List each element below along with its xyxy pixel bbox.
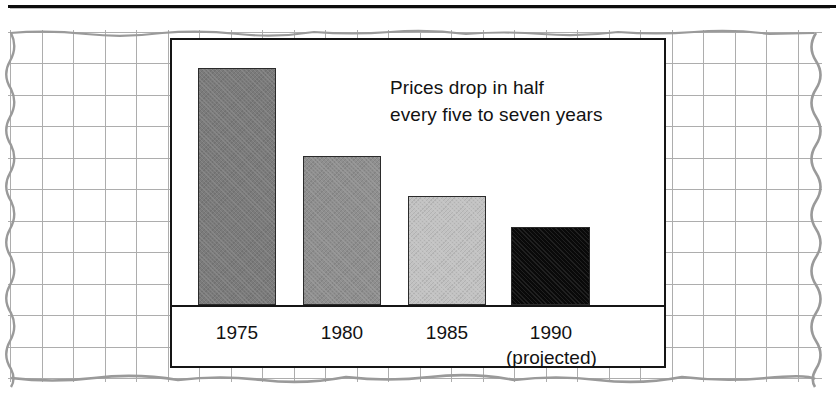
page-top-rule — [8, 5, 836, 8]
x-tick-label: 1985 — [426, 322, 468, 343]
x-tick-1975: 1975 — [194, 321, 280, 345]
bar-1985 — [408, 196, 486, 305]
bar-1975 — [198, 68, 276, 305]
bar-1990 — [511, 227, 590, 305]
x-tick-label: 1975 — [216, 322, 258, 343]
x-tick-sublabel: (projected) — [506, 345, 596, 371]
x-tick-1980: 1980 — [299, 321, 385, 345]
chart-annotation: Prices drop in half every five to seven … — [390, 74, 640, 128]
x-axis-label-row: 1975 1980 1985 1990 (projected) — [172, 307, 664, 368]
chart-panel: Prices drop in half every five to seven … — [170, 38, 666, 368]
x-tick-label: 1980 — [321, 322, 363, 343]
annotation-line-2: every five to seven years — [390, 101, 640, 128]
bar-1980 — [303, 156, 381, 305]
annotation-line-1: Prices drop in half — [390, 74, 640, 101]
x-tick-1990: 1990 (projected) — [506, 321, 596, 371]
x-tick-1985: 1985 — [404, 321, 490, 345]
x-tick-label: 1990 — [530, 322, 572, 343]
